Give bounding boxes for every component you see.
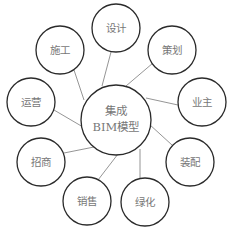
- edge-sales: [98, 154, 118, 180]
- center-label-line1: 集成: [105, 104, 128, 118]
- node-design: 设计: [92, 4, 140, 52]
- node-label: 业主: [192, 96, 212, 108]
- edge-construction: [74, 70, 84, 100]
- node-owner: 业主: [178, 78, 226, 126]
- center-label-line2: BIM模型: [93, 120, 140, 134]
- node-label: 设计: [106, 22, 127, 34]
- node-label: 施工: [50, 44, 70, 56]
- node-assembly: 装配: [166, 138, 214, 186]
- node-label: 绿化: [135, 196, 156, 208]
- node-investment: 招商: [17, 138, 65, 186]
- edge-owner: [146, 98, 178, 105]
- center-node: 集成 BIM模型: [81, 85, 151, 155]
- edge-design: [102, 52, 111, 86]
- node-label: 装配: [180, 156, 201, 168]
- node-sales: 销售: [63, 177, 111, 225]
- bim-diagram: 集成 BIM模型 设计 策划 业主 装配 绿化 销售 招商 运营 施工: [0, 0, 230, 237]
- edge-assembly: [149, 124, 172, 145]
- edge-operation: [54, 110, 83, 127]
- node-label: 运营: [21, 96, 41, 108]
- node-planning: 策划: [148, 26, 196, 74]
- node-label: 销售: [77, 195, 97, 207]
- edge-planning: [126, 63, 153, 86]
- node-operation: 运营: [7, 78, 55, 126]
- node-greening: 绿化: [121, 178, 169, 226]
- node-construction: 施工: [36, 26, 84, 74]
- edge-investment: [64, 147, 94, 153]
- node-label: 策划: [162, 44, 182, 56]
- node-label: 招商: [31, 156, 51, 168]
